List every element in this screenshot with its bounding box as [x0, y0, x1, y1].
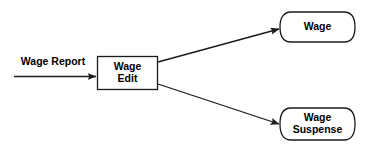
wage-suspense-store-label-line-1: Wage	[304, 111, 332, 123]
flow-wage-edit-to-wage	[158, 29, 279, 62]
flow-wage-edit-to-wage-suspense	[158, 84, 279, 124]
flow-label-wage-report: Wage Report	[21, 55, 86, 67]
flow-wage-report-input: Wage Report	[14, 55, 96, 77]
node-wage-store[interactable]: Wage	[280, 12, 355, 42]
diagram-canvas: Wage Report Wage Edit Wage Wage Suspense	[0, 0, 366, 151]
wage-store-label-line-1: Wage	[304, 20, 332, 32]
wage-suspense-store-label-line-2: Suspense	[293, 123, 343, 135]
arrow-wage-edit-to-wage	[158, 29, 279, 62]
node-wage-edit[interactable]: Wage Edit	[98, 57, 158, 90]
node-wage-suspense-store[interactable]: Wage Suspense	[280, 108, 355, 140]
arrow-wage-edit-to-wage-suspense	[158, 84, 279, 124]
data-flow-diagram: Wage Report Wage Edit Wage Wage Suspense	[0, 0, 366, 151]
wage-edit-label-line-2: Edit	[118, 72, 138, 84]
wage-edit-label-line-1: Wage	[114, 60, 142, 72]
